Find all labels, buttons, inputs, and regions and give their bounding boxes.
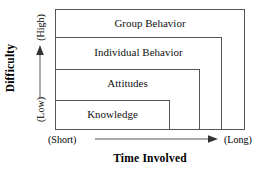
x-axis-title: Time Involved bbox=[55, 152, 245, 164]
right-arrow-icon bbox=[95, 132, 219, 146]
band-label-group-behavior: Group Behavior bbox=[55, 17, 245, 29]
band-label-individual-behavior: Individual Behavior bbox=[55, 46, 222, 58]
x-axis-short-label: (Short) bbox=[48, 134, 76, 145]
band-label-attitudes: Attitudes bbox=[55, 77, 200, 89]
behavior-difficulty-diagram: Difficulty (High) (Low) Group Behavior I… bbox=[0, 0, 273, 172]
band-label-knowledge: Knowledge bbox=[55, 108, 170, 120]
x-axis-long-label: (Long) bbox=[224, 134, 252, 145]
